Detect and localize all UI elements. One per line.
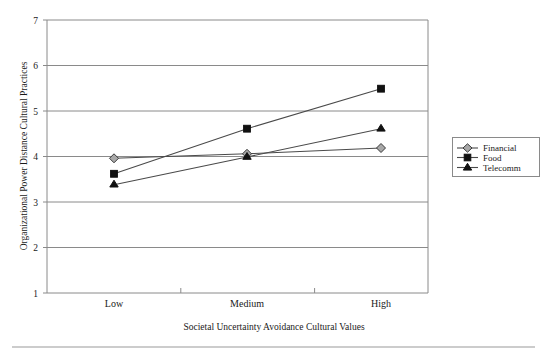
datapoint-food-medium (244, 125, 251, 132)
x-tick-label-low: Low (105, 298, 124, 309)
square-icon (464, 154, 471, 161)
x-axis-title: Societal Uncertainty Avoidance Cultural … (183, 322, 364, 332)
y-tick-label-1: 1 (33, 289, 38, 299)
chart-background (0, 0, 547, 359)
datapoint-food-high (378, 85, 385, 92)
legend-label-telecomm: Telecomm (483, 163, 521, 173)
line-chart-svg: 7 6 5 4 3 2 1 Low Medium High Societal U… (0, 0, 547, 359)
y-tick-label-5: 5 (33, 107, 38, 117)
y-tick-label-3: 3 (33, 198, 38, 208)
datapoint-food-low (111, 170, 118, 177)
x-tick-label-high: High (371, 298, 391, 309)
y-tick-label-7: 7 (33, 16, 38, 26)
x-tick-label-medium: Medium (230, 298, 264, 309)
y-axis-title: Organizational Power Distance Cultural P… (19, 61, 29, 250)
chart-figure: 7 6 5 4 3 2 1 Low Medium High Societal U… (0, 0, 547, 359)
y-tick-label-6: 6 (33, 61, 38, 71)
y-tick-label-4: 4 (33, 152, 38, 162)
legend-label-financial: Financial (483, 143, 517, 153)
y-tick-label-2: 2 (33, 243, 38, 253)
chart-legend[interactable]: Financial Food Telecomm (453, 138, 540, 177)
legend-label-food: Food (483, 153, 502, 163)
